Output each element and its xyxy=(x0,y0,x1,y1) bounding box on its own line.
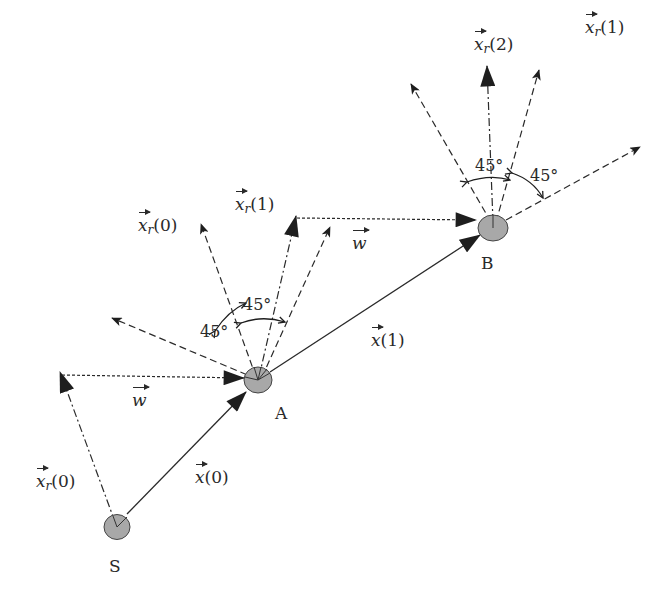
edge-s-to-a-x0 xyxy=(127,392,246,514)
edge-a-to-b-x1 xyxy=(270,235,480,372)
label-x1: x(1) xyxy=(371,332,405,349)
label-xr0-a: xr(0) xyxy=(138,217,177,236)
label-x0: x(0) xyxy=(195,469,229,486)
edge-w-upper xyxy=(297,218,476,220)
diagram-graphics xyxy=(0,0,668,604)
angle-label-a-left: 45° xyxy=(200,322,228,341)
label-w-lower: w xyxy=(132,392,147,409)
angle-label-b-right: 45° xyxy=(530,166,558,185)
label-xr1-a: xr(1) xyxy=(235,196,274,215)
edge-w-lower xyxy=(62,375,244,378)
vector-arg: (1) xyxy=(250,194,274,214)
vector-symbol: x xyxy=(585,19,595,36)
vector-arg: (2) xyxy=(489,34,513,54)
node-s xyxy=(104,515,130,540)
vector-symbol: x xyxy=(371,332,381,349)
vector-symbol: x xyxy=(36,473,46,490)
diagram-canvas: xr(1) xr(2) xr(1) xr(0) w x(1) w x(0) xr… xyxy=(0,0,668,604)
node-label-s: S xyxy=(109,556,121,576)
angle-label-a-top: 45° xyxy=(243,295,271,314)
edge-s-xr0 xyxy=(60,372,115,522)
label-xr2-b: xr(2) xyxy=(474,36,513,55)
vector-symbol: x xyxy=(235,196,245,213)
label-xr1-b: xr(1) xyxy=(585,19,624,38)
angle-label-b-top: 45° xyxy=(475,156,503,175)
node-b xyxy=(478,215,508,241)
vector-symbol: w xyxy=(352,235,367,252)
vector-symbol: x xyxy=(474,36,484,53)
vector-symbol: x xyxy=(195,469,205,486)
vector-arg: (0) xyxy=(205,467,229,487)
vector-arg: (1) xyxy=(600,17,624,37)
vector-symbol: w xyxy=(132,392,147,409)
label-xr0-s: xr(0) xyxy=(36,473,75,492)
node-label-b: B xyxy=(481,253,494,273)
rays-at-b xyxy=(411,66,640,222)
vector-symbol: x xyxy=(138,217,148,234)
node-label-a: A xyxy=(275,403,287,423)
node-a xyxy=(244,367,272,393)
vector-arg: (0) xyxy=(51,471,75,491)
vector-arg: (0) xyxy=(153,215,177,235)
label-w-upper: w xyxy=(352,235,367,252)
vector-arg: (1) xyxy=(381,330,405,350)
